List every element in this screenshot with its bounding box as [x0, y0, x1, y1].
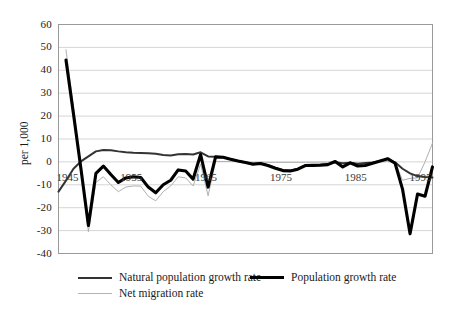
chart-figure: per 1,000 6050403020100-10-20-30-40 1945…	[0, 0, 455, 309]
y-tick-label: -20	[20, 201, 52, 213]
legend-label: Net migration rate	[119, 288, 203, 300]
y-tick-label: 30	[20, 86, 52, 98]
y-tick-label: 0	[20, 155, 52, 167]
legend-swatch-icon	[78, 293, 112, 294]
x-tick-label: 1945	[57, 171, 79, 183]
legend-swatch-icon	[250, 276, 284, 279]
y-tick-label: 50	[20, 40, 52, 52]
x-tick-label: 1995	[410, 171, 432, 183]
y-tick-label: 20	[20, 109, 52, 121]
x-tick-label: 1985	[345, 171, 367, 183]
x-tick-label: 1955	[120, 171, 142, 183]
series-line	[59, 150, 433, 192]
x-tick-label: 1975	[270, 171, 292, 183]
x-tick-label: 1965	[195, 171, 217, 183]
gridlines-group	[59, 47, 433, 230]
legend-item[interactable]: Net migration rate	[78, 288, 203, 300]
legend-label: Population growth rate	[291, 272, 396, 284]
y-tick-label: -40	[20, 247, 52, 259]
legend-item[interactable]: Natural population growth rate	[78, 272, 261, 284]
series-group	[59, 50, 433, 234]
y-tick-label: 40	[20, 63, 52, 75]
legend-item[interactable]: Population growth rate	[250, 272, 396, 284]
y-tick-label: -10	[20, 178, 52, 190]
chart-svg	[0, 0, 455, 309]
y-tick-label: 60	[20, 18, 52, 30]
legend-swatch-icon	[78, 277, 112, 279]
series-line	[66, 50, 433, 232]
y-tick-label: 10	[20, 132, 52, 144]
legend-label: Natural population growth rate	[119, 272, 261, 284]
y-tick-label: -30	[20, 224, 52, 236]
